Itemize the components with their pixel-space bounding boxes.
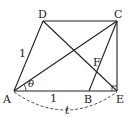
label-D: D: [38, 8, 47, 21]
label-A: A: [2, 93, 12, 106]
label-t: t: [65, 104, 70, 117]
label-C: C: [114, 8, 122, 21]
segment-DE: [43, 21, 117, 91]
label-AD-length: 1: [19, 47, 26, 60]
angle-arc-theta: [24, 85, 26, 92]
label-AB-length: 1: [50, 92, 57, 105]
label-B: B: [84, 93, 92, 106]
label-F: F: [93, 56, 101, 69]
geometry-diagram: D C A B E F 1 1 θ t: [0, 0, 136, 117]
label-E: E: [116, 93, 124, 106]
label-theta: θ: [28, 78, 34, 89]
